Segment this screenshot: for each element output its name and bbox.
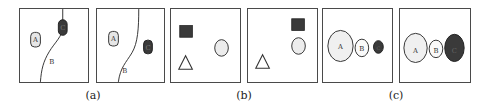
region-c-label: C [60, 24, 65, 32]
panel-a2-drawing: A C B [97, 9, 164, 82]
panel-a1: A C B [19, 8, 89, 83]
ellipse-a-label: A [337, 43, 343, 51]
panel-b2-drawing [248, 9, 317, 82]
panel-b2 [247, 8, 318, 83]
panel-c1: A B C [322, 8, 393, 83]
ellipse-b-label: B [359, 45, 364, 53]
curve-b-label: B [49, 58, 54, 66]
region-a-label: A [32, 36, 38, 44]
dark-square [180, 26, 193, 38]
panel-c2-drawing: A B C [400, 9, 470, 82]
caption-a: (a) [73, 89, 113, 102]
ellipse-a-label: A [412, 47, 418, 55]
curve-b-label: B [122, 67, 127, 75]
ellipse-b-label: B [433, 47, 438, 55]
circle [215, 40, 229, 57]
triangle [179, 56, 193, 70]
curve-b [40, 9, 62, 82]
panel-c1-drawing: A B C [323, 9, 392, 82]
panel-b1 [170, 8, 241, 83]
region-a-label: A [110, 35, 116, 43]
ellipse-c-label: C [452, 47, 457, 55]
triangle [256, 55, 270, 69]
panel-a1-drawing: A C B [20, 9, 88, 82]
panel-c2: A B C [399, 8, 471, 83]
panel-a2: A C B [96, 8, 165, 83]
region-c-label: C [145, 44, 150, 52]
dark-square [292, 19, 305, 31]
caption-c: (c) [376, 89, 416, 102]
panel-b1-drawing [171, 9, 240, 82]
circle [292, 38, 306, 55]
caption-b: (b) [224, 89, 264, 102]
ellipse-c-label: C [377, 45, 381, 51]
